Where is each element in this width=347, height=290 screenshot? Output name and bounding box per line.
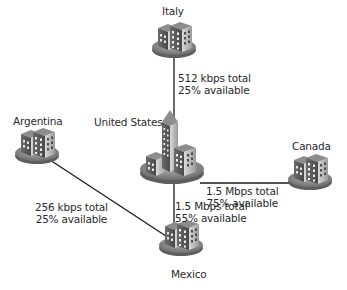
link-label-italy-us: 512 kbps total 25% available	[178, 72, 251, 96]
link-bandwidth-available: 25% available	[178, 84, 251, 96]
node-label-canada: Canada	[292, 140, 331, 152]
link-bandwidth-total: 256 kbps total	[35, 201, 108, 213]
link-bandwidth-total: 512 kbps total	[178, 72, 251, 84]
link-bandwidth-total: 1.5 Mbps total	[175, 200, 247, 212]
link-bandwidth-available: 25% available	[35, 213, 108, 225]
link-label-argentina-mexico: 256 kbps total 25% available	[35, 201, 108, 225]
link-label-us-mexico: 1.5 Mbps total 55% available	[175, 200, 247, 224]
link-bandwidth-total: 1.5 Mbps total	[206, 185, 278, 197]
site-icon-argentina	[15, 128, 59, 164]
link-bandwidth-available: 55% available	[175, 212, 247, 224]
site-icon-mexico	[159, 220, 203, 256]
node-label-united-states: United States	[94, 116, 163, 128]
site-icon-canada	[288, 154, 332, 190]
site-icon-italy	[152, 22, 196, 58]
node-label-argentina: Argentina	[13, 115, 62, 127]
node-label-mexico: Mexico	[171, 268, 206, 280]
node-label-italy: Italy	[162, 5, 184, 17]
